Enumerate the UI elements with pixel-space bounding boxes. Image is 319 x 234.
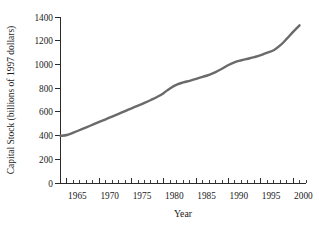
x-tick-label: 1985 (197, 191, 216, 201)
y-tick-label: 800 (39, 84, 53, 94)
x-tick-label: 1980 (165, 191, 184, 201)
y-tick-label: 1200 (34, 36, 53, 46)
y-tick-label: 1000 (34, 60, 53, 70)
y-tick-label: 1400 (34, 13, 53, 23)
x-tick-label: 2000 (294, 191, 313, 201)
line-chart: Capital Stock (billions of 1997 dollars)… (0, 0, 319, 234)
x-tick-label: 1975 (133, 191, 152, 201)
x-tick-labels: 1965 1970 1975 1980 1985 1990 1995 2000 (68, 191, 313, 201)
x-axis-title: Year (174, 208, 193, 219)
x-tick-label: 1970 (100, 191, 119, 201)
y-axis-ticks (55, 17, 61, 183)
capital-stock-series (61, 25, 300, 136)
x-axis-minor-ticks (61, 180, 307, 183)
x-tick-label: 1965 (68, 191, 87, 201)
y-tick-label: 0 (48, 179, 53, 189)
y-tick-labels: 0 200 400 600 800 1000 1200 1400 (34, 13, 53, 189)
x-tick-label: 1990 (230, 191, 249, 201)
chart-figure: Capital Stock (billions of 1997 dollars)… (0, 0, 319, 234)
y-tick-label: 400 (39, 131, 53, 141)
x-tick-label: 1995 (262, 191, 281, 201)
y-tick-label: 200 (39, 155, 53, 165)
y-tick-label: 600 (39, 107, 53, 117)
x-axis-major-ticks (67, 178, 293, 184)
y-axis-title: Capital Stock (billions of 1997 dollars) (6, 26, 17, 175)
